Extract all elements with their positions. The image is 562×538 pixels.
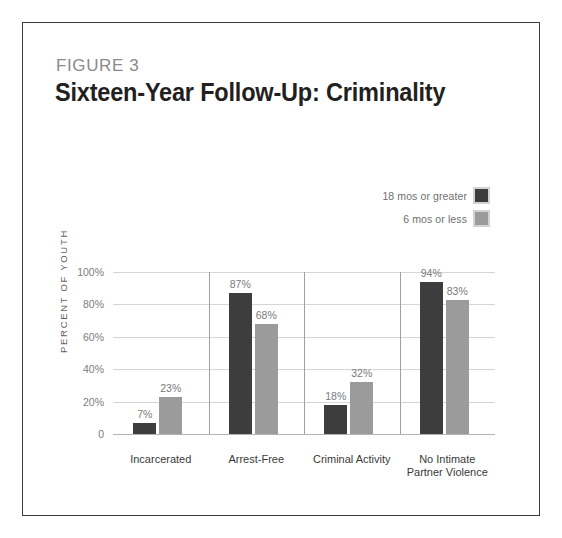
bar-value-label: 83% (447, 285, 468, 297)
bar-group: 18%32%Criminal Activity (304, 272, 400, 434)
y-axis-title: PERCENT OF YOUTH (58, 229, 69, 353)
bar[interactable]: 23% (159, 397, 182, 434)
bar-value-label: 87% (230, 278, 251, 290)
x-axis-category-label-line: Partner Violence (382, 466, 512, 479)
legend-item-18-mos-or-greater[interactable]: 18 mos or greater (370, 186, 490, 205)
bar-value-label: 7% (137, 408, 152, 420)
bar-value-label: 23% (160, 382, 181, 394)
legend-swatch-dark (473, 187, 490, 204)
chart-legend: 18 mos or greater 6 mos or less (370, 186, 490, 232)
bar[interactable]: 18% (324, 405, 347, 434)
y-axis-tick-label: 100% (77, 266, 104, 278)
y-axis-tick-label: 40% (83, 363, 104, 375)
plot-area: 020%40%60%80%100%7%23%Incarcerated87%68%… (113, 272, 495, 434)
x-axis-category-label: No IntimatePartner Violence (382, 453, 512, 479)
legend-item-6-mos-or-less[interactable]: 6 mos or less (370, 209, 490, 228)
bar-group: 94%83%No IntimatePartner Violence (400, 272, 496, 434)
legend-item-label: 6 mos or less (403, 213, 467, 225)
y-axis-tick-label: 80% (83, 298, 104, 310)
bar[interactable]: 68% (255, 324, 278, 434)
y-axis-tick-label: 0 (98, 428, 104, 440)
figure-root: FIGURE 3 Sixteen-Year Follow-Up: Crimina… (0, 0, 562, 538)
x-axis-category-label-line: No Intimate (382, 453, 512, 466)
y-axis-tick-label: 20% (83, 396, 104, 408)
bar-value-label: 94% (421, 267, 442, 279)
bar-group: 87%68%Arrest-Free (209, 272, 305, 434)
bar[interactable]: 7% (133, 423, 156, 434)
axis-baseline (113, 434, 495, 435)
legend-swatch-light (473, 210, 490, 227)
bar-value-label: 68% (256, 309, 277, 321)
bar[interactable]: 32% (350, 382, 373, 434)
bar[interactable]: 87% (229, 293, 252, 434)
figure-title: Sixteen-Year Follow-Up: Criminality (55, 78, 445, 107)
y-axis-tick-label: 60% (83, 331, 104, 343)
bar-group: 7%23%Incarcerated (113, 272, 209, 434)
bar[interactable]: 94% (420, 282, 443, 434)
bar[interactable]: 83% (446, 300, 469, 434)
bar-value-label: 32% (351, 367, 372, 379)
bar-value-label: 18% (325, 390, 346, 402)
legend-item-label: 18 mos or greater (382, 190, 467, 202)
figure-number-label: FIGURE 3 (56, 56, 139, 76)
